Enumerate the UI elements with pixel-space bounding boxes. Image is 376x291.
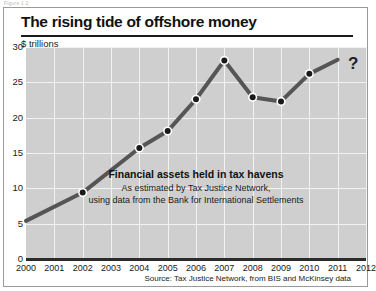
figure-caption: Figure 1.2 — [4, 0, 60, 6]
x-axis-tick-label: 2008 — [243, 263, 263, 273]
x-axis-tick-label: 2010 — [299, 263, 319, 273]
y-axis-tick-labels: 051015202530 — [4, 8, 23, 288]
y-axis-tick-label: 25 — [6, 77, 23, 87]
x-axis-tick-label: 2007 — [214, 263, 234, 273]
data-point-marker — [306, 71, 312, 77]
x-axis-tick-label: 2000 — [16, 263, 36, 273]
data-point-marker — [250, 94, 256, 100]
series-line-chart — [26, 47, 366, 259]
forecast-question-mark: ? — [348, 54, 358, 74]
x-axis-tick-label: 2011 — [328, 263, 347, 273]
source-note: Source: Tax Justice Network, from BIS an… — [144, 274, 351, 283]
x-axis-tick-label: 2009 — [271, 263, 291, 273]
x-axis-tick-label: 2012 — [356, 263, 376, 273]
x-axis-tick-label: 2003 — [101, 263, 121, 273]
data-point-marker — [165, 128, 171, 134]
data-point-marker — [193, 96, 199, 102]
data-point-marker — [136, 145, 142, 151]
data-point-marker — [278, 98, 284, 104]
chart-card: The rising tide of offshore money $ tril… — [3, 7, 368, 287]
x-axis-tick-label: 2005 — [158, 263, 178, 273]
data-point-marker — [80, 190, 86, 196]
x-axis-tick-label: 2002 — [73, 263, 93, 273]
series-polyline — [26, 60, 338, 221]
data-point-marker — [221, 57, 227, 63]
x-axis-tick-label: 2006 — [186, 263, 206, 273]
plot-wrapper: 051015202530 ? Financial assets held in … — [4, 8, 369, 288]
y-axis-tick-label: 15 — [6, 148, 23, 158]
y-axis-tick-label: 30 — [6, 42, 23, 52]
y-axis-tick-label: 20 — [6, 113, 23, 123]
y-axis-tick-label: 10 — [6, 183, 23, 193]
y-axis-tick-label: 5 — [6, 219, 23, 229]
gridline-vertical — [366, 47, 367, 259]
series-markers — [78, 56, 314, 197]
x-axis-tick-label: 2004 — [129, 263, 149, 273]
x-axis-tick-label: 2001 — [44, 263, 64, 273]
